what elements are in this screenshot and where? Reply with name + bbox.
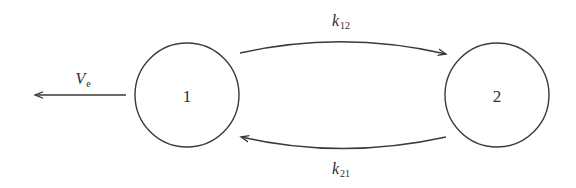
k12-label: k12 xyxy=(332,13,350,31)
arrow-k21 xyxy=(241,137,446,149)
k12-label-main: k xyxy=(332,12,339,29)
k21-label: k21 xyxy=(332,161,350,179)
ve-label-main: V xyxy=(75,70,85,87)
k21-label-main: k xyxy=(332,160,339,177)
diagram-canvas xyxy=(0,0,576,188)
ve-label-sub: e xyxy=(86,78,90,89)
k12-label-sub: 12 xyxy=(340,20,350,31)
compartment-1-label: 1 xyxy=(183,88,192,105)
arrow-k12 xyxy=(240,42,446,54)
k21-label-sub: 21 xyxy=(340,168,350,179)
compartment-2-label: 2 xyxy=(493,88,502,105)
ve-label: Ve xyxy=(75,71,90,89)
